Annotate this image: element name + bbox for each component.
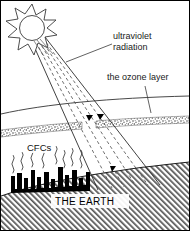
cfcs-text: CFCs xyxy=(27,142,52,153)
ultraviolet-text-line1: ultraviolet xyxy=(113,31,152,41)
ozone-layer-text: the ozone layer xyxy=(107,72,169,82)
sun-icon xyxy=(6,4,57,55)
ozone-leader-line xyxy=(145,86,151,113)
the-earth-label: THE EARTH xyxy=(51,194,129,208)
ultraviolet-text-line2: radiation xyxy=(113,42,148,52)
ozone-band xyxy=(1,116,189,137)
ozone-diagram-figure: THE EARTH CFCs xyxy=(0,0,190,231)
cfcs-label: CFCs xyxy=(25,141,53,153)
the-earth-text: THE EARTH xyxy=(55,196,114,207)
uv-leader-line xyxy=(66,44,112,62)
diagram-canvas: THE EARTH CFCs xyxy=(0,0,190,231)
ultraviolet-radiation-label: ultraviolet radiation xyxy=(113,31,152,52)
